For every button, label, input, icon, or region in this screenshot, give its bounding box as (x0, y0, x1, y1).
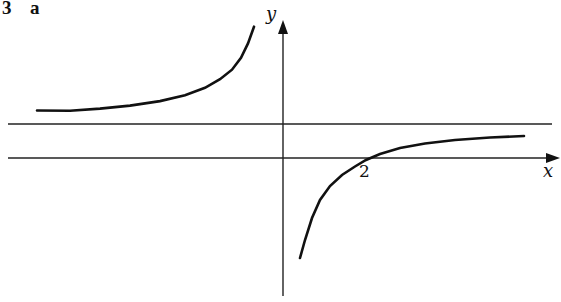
y-axis-label: y (266, 3, 276, 24)
graph-figure: 3 a y x 2 (0, 0, 561, 302)
part-label: a (30, 0, 40, 19)
curve-left-branch (37, 27, 254, 111)
graph-canvas (0, 0, 561, 302)
curve-right-branch (300, 136, 524, 258)
question-number: 3 (2, 0, 12, 19)
x-intercept-label: 2 (359, 161, 370, 181)
x-axis-label: x (543, 160, 553, 181)
y-axis-arrow-icon (278, 20, 288, 34)
